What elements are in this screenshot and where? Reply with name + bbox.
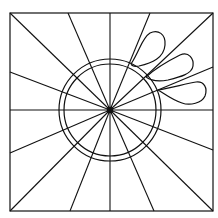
petal-loops — [131, 32, 206, 105]
spoke-line — [110, 110, 213, 211]
spoke-line — [110, 110, 213, 150]
spoke-line — [10, 110, 110, 211]
center-hub — [107, 107, 113, 113]
radial-diagram — [0, 0, 218, 218]
loop-bottom — [158, 82, 206, 104]
spoke-line — [10, 72, 110, 110]
loop-middle — [146, 54, 193, 81]
loop-top — [131, 32, 165, 67]
spoke-line — [68, 13, 110, 110]
